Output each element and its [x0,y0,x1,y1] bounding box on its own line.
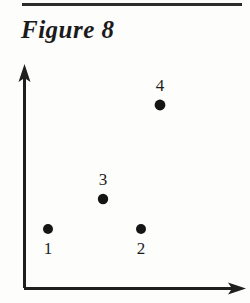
scatter-plot: 1 2 3 4 [0,0,250,303]
data-point-label: 1 [44,239,53,258]
data-point-dot [98,194,108,204]
data-point-dot [155,100,166,111]
data-point-dot [43,224,53,234]
data-point-label: 3 [99,170,108,189]
plot-svg: 1 2 3 4 [0,0,250,303]
data-point-label: 2 [137,239,146,258]
figure-page: Figure 8 1 2 3 4 [0,0,250,303]
data-point-dot [136,224,146,234]
data-point-label: 4 [156,76,165,95]
